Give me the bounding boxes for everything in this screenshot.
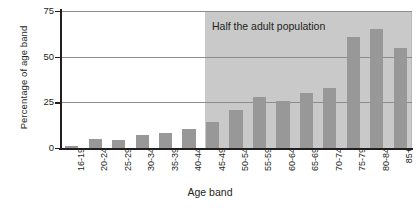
bar-80-84 — [370, 29, 383, 148]
bar-70-74 — [323, 88, 336, 148]
x-tick-label-35-39: 35-39 — [170, 148, 180, 190]
y-tick-label-50: 50 — [30, 51, 54, 62]
bar-series — [60, 11, 412, 148]
x-tick-label-85+: 85+ — [404, 148, 414, 190]
x-tick-label-75-79: 75-79 — [357, 148, 367, 190]
bar-35-39 — [159, 133, 172, 148]
bar-50-54 — [229, 110, 242, 148]
x-tick-label-16-19: 16-19 — [76, 148, 86, 190]
x-tick-label-70-74: 70-74 — [334, 148, 344, 190]
y-tick-label-25: 25 — [30, 96, 54, 107]
bar-75-79 — [347, 37, 360, 148]
x-tick-label-20-24: 20-24 — [99, 148, 109, 190]
bar-25-29 — [112, 140, 125, 148]
y-tick-label-75: 75 — [30, 5, 54, 16]
x-tick-label-45-49: 45-49 — [217, 148, 227, 190]
x-tick-label-60-64: 60-64 — [287, 148, 297, 190]
x-tick-label-65-69: 65-69 — [310, 148, 320, 190]
x-tick-label-30-34: 30-34 — [146, 148, 156, 190]
x-tick-label-40-44: 40-44 — [193, 148, 203, 190]
bar-65-69 — [300, 93, 313, 148]
x-tick-label-55-59: 55-59 — [263, 148, 273, 190]
bar-60-64 — [276, 101, 289, 148]
bar-40-44 — [182, 129, 195, 148]
y-tick-mark-25 — [55, 102, 60, 103]
bar-85+ — [394, 48, 407, 148]
x-tick-label-25-29: 25-29 — [123, 148, 133, 190]
y-axis-line — [60, 9, 62, 150]
y-tick-mark-50 — [55, 57, 60, 58]
y-tick-mark-75 — [55, 11, 60, 12]
x-axis-title: Age band — [0, 186, 420, 198]
x-tick-label-80-84: 80-84 — [381, 148, 391, 190]
bar-30-34 — [136, 135, 149, 148]
y-tick-label-0: 0 — [30, 142, 54, 153]
bar-20-24 — [89, 139, 102, 148]
bar-chart: Percentage of age band Half the adult po… — [0, 0, 420, 208]
x-tick-label-50-54: 50-54 — [240, 148, 250, 190]
bar-45-49 — [206, 122, 219, 148]
y-axis-title: Percentage of age band — [18, 8, 29, 148]
bar-55-59 — [253, 97, 266, 148]
